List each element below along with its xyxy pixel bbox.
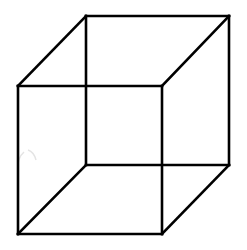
necker-cube-figure <box>0 0 247 250</box>
connect-bottom-right-edge <box>162 165 229 234</box>
connecting-edges <box>18 16 229 234</box>
connect-bottom-left-edge <box>18 165 86 234</box>
diagram-canvas: Necker cube <box>0 0 247 250</box>
smudge-mark <box>18 150 36 170</box>
connect-top-left-edge <box>18 16 86 86</box>
connect-top-right-edge <box>162 16 229 86</box>
